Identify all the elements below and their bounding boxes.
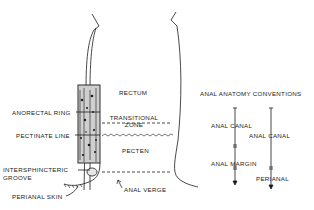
label-perianal-skin: PERIANAL SKIN	[12, 193, 62, 200]
perianal-skin-pointer	[66, 186, 78, 196]
right-wall	[171, 12, 198, 187]
anal-verge-arrow	[117, 180, 122, 188]
label-anal-verge: ANAL VERGE	[124, 186, 166, 193]
conventions-title: ANAL ANATOMY CONVENTIONS	[200, 90, 302, 97]
sphincter-muscle	[78, 85, 100, 163]
conventions-left-anal-margin: ANAL MARGIN	[211, 160, 257, 167]
label-groove: GROOVE	[3, 174, 32, 181]
pectinate-zigzag	[102, 134, 173, 136]
label-pectinate-line: PECTINATE LINE	[16, 132, 70, 139]
label-pecten: PECTEN	[122, 147, 149, 154]
intersphincteric-groove-shape	[87, 168, 97, 176]
conventions-right-anal-canal: ANAL CANAL	[249, 132, 290, 139]
conventions-left-column	[233, 108, 237, 185]
label-intersphincteric: INTERSPHINCTERIC	[3, 166, 68, 173]
label-anorectal-ring: ANORECTAL RING	[12, 109, 71, 116]
label-transitional-zone-1: TRANSITIONAL	[104, 114, 164, 121]
label-rectum: RECTUM	[119, 89, 147, 96]
conventions-right-perianal: PERIANAL	[256, 175, 289, 182]
label-transitional-zone-2: ZONE	[104, 121, 164, 128]
conventions-left-anal-canal: ANAL CANAL	[211, 122, 252, 129]
anal-anatomy-diagram: RECTUM TRANSITIONAL ZONE PECTEN ANAL VER…	[0, 0, 314, 210]
